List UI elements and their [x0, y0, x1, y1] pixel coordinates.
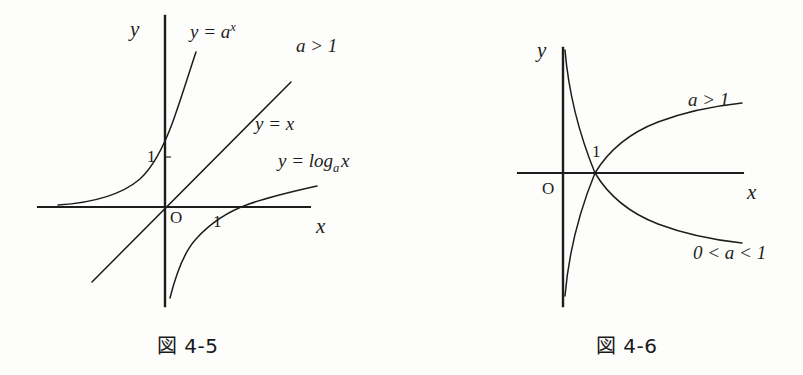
label-identity-line: y = x	[255, 114, 294, 133]
y-tick-label-1: 1	[147, 148, 156, 165]
figure-caption-4-5: 図 4-5	[157, 330, 219, 359]
figure-4-5: y x O 1 1 y = ax a > 1 y = x y = loga x …	[0, 0, 400, 375]
label-exponential-text: y = a	[190, 21, 230, 42]
x-tick-label-1: 1	[592, 143, 601, 160]
label-condition-a-gt-1: a > 1	[296, 36, 337, 55]
label-logarithm-arg: x	[341, 150, 349, 171]
figure-4-5-plot	[0, 0, 400, 375]
label-logarithm-prefix: y = log	[278, 150, 333, 171]
label-logarithm-curve: y = loga x	[278, 151, 349, 170]
curve-identity	[92, 82, 291, 282]
y-axis-label: y	[130, 19, 139, 40]
figure-4-6: y x O 1 a > 1 0 < a < 1 図 4-6	[400, 0, 803, 375]
label-exponential-curve: y = ax	[190, 22, 236, 41]
x-axis-label: x	[747, 182, 756, 203]
figure-page: y x O 1 1 y = ax a > 1 y = x y = loga x …	[0, 0, 803, 375]
curve-log-a-between-0-1	[565, 173, 742, 296]
x-tick-label-1: 1	[213, 213, 222, 230]
figure-caption-4-6: 図 4-6	[596, 330, 658, 359]
x-axis-label: x	[316, 216, 325, 237]
label-a-greater-1: a > 1	[688, 90, 729, 109]
label-exponential-exponent: x	[230, 20, 236, 34]
label-a-between-0-1: 0 < a < 1	[693, 243, 766, 262]
curve-exponential	[58, 52, 196, 205]
curve-logarithm	[170, 186, 317, 298]
origin-label: O	[170, 209, 182, 226]
y-axis-label: y	[537, 40, 546, 61]
origin-label: O	[542, 180, 554, 197]
figure-4-6-plot	[400, 0, 803, 375]
